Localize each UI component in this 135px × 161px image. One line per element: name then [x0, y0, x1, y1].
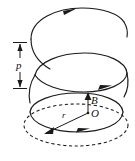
helix-figure: p B O r: [0, 0, 135, 161]
helix-turn-top: [31, 8, 127, 69]
base-circle-front-arc: [30, 112, 123, 132]
helix-mid-left-descent: [29, 75, 35, 103]
helix-top-right-arc: [124, 22, 127, 37]
pitch-arrow-up: [17, 44, 22, 52]
helix-mid-back-arc: [35, 53, 127, 75]
helix-top-back-arc: [31, 8, 124, 39]
label-origin: O: [91, 107, 99, 119]
base-circle-back-arc: [30, 93, 123, 112]
base-circle: [30, 93, 123, 132]
pitch-arrow-down: [17, 80, 22, 88]
helix-diagram-canvas: p B O r: [0, 0, 135, 161]
helix-mid-front-arc: [35, 73, 127, 92]
label-magnetic-field: B: [91, 94, 98, 106]
origin-point: [87, 112, 90, 115]
helix-turn-middle: [29, 53, 128, 103]
label-radius: r: [62, 110, 66, 120]
label-pitch: p: [15, 59, 22, 71]
helix-top-left-descent: [31, 39, 50, 69]
